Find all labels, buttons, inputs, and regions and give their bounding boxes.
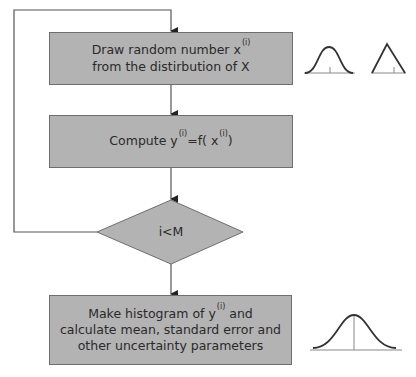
step-draw-line2: from the distirbution of X (92, 59, 251, 75)
step-histogram-line3: other uncertainty parameters (60, 338, 281, 354)
step-compute-text: Compute y(i)=f( x(i)) (109, 133, 232, 149)
decision-label: i<M (141, 224, 201, 239)
step-compute-y: Compute y(i)=f( x(i)) (49, 115, 293, 168)
step-histogram-line2: calculate mean, standard error and (60, 322, 281, 338)
step-make-histogram: Make histogram of y(i) and calculate mea… (49, 295, 292, 365)
monte-carlo-flowchart: Draw random number x(i) from the distirb… (0, 0, 416, 377)
step-draw-line1: Draw random number x(i) (92, 42, 251, 58)
triangular-distribution-icon (371, 44, 406, 73)
output-distribution-icon (310, 315, 402, 350)
step-draw-random-number: Draw random number x(i) from the distirb… (49, 32, 293, 85)
step-histogram-line1: Make histogram of y(i) and (60, 306, 281, 322)
normal-distribution-icon (304, 47, 355, 73)
